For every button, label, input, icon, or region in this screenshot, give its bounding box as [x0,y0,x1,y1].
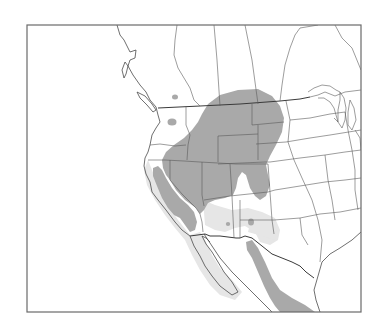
patch-arizona [226,222,230,226]
patch-new-mexico [248,219,254,226]
patch-washington [168,119,177,126]
range-map [0,0,383,326]
patch-bc [172,95,178,100]
